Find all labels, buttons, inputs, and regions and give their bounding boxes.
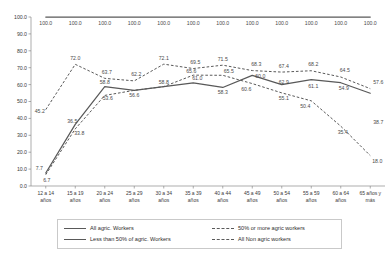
data-label: 54.9 (339, 85, 349, 91)
data-label: 72.0 (70, 55, 80, 61)
data-label: 38.7 (373, 119, 383, 125)
y-tick-label: 70.0 (17, 65, 27, 71)
data-label: 45.2 (35, 108, 45, 114)
data-label: 65.6 (186, 68, 196, 74)
x-tick-label: 65 años y (359, 190, 381, 196)
data-label: 6.7 (43, 177, 50, 183)
data-label: 67.4 (279, 63, 289, 69)
x-tick-label: años (188, 197, 199, 203)
data-label: 62.2 (131, 71, 141, 77)
data-label: 100.0 (275, 20, 288, 26)
series-line (46, 64, 371, 109)
legend-entry[interactable]: 50% or more agric workers (212, 223, 349, 234)
dashed-line-icon (212, 228, 234, 229)
data-label: 100.0 (98, 20, 111, 26)
data-label: 7.7 (36, 165, 43, 171)
data-label: 56.6 (129, 92, 139, 98)
data-label: 60.6 (241, 86, 251, 92)
x-tick-label: 15 a 19 (67, 190, 84, 196)
data-label: 58.3 (218, 89, 228, 95)
x-tick-label: años (335, 197, 346, 203)
y-tick-label: 100.0 (14, 14, 27, 20)
plot-area: 0.010.020.030.040.050.060.070.080.090.01… (0, 0, 392, 215)
solid-line-icon (64, 239, 86, 240)
series-line (46, 75, 371, 175)
data-label: 60.0 (255, 73, 265, 79)
x-tick-label: más (366, 197, 376, 203)
data-label: 53.6 (103, 95, 113, 101)
dashed-line-icon (212, 239, 234, 240)
y-axis: 0.010.020.030.040.050.060.070.080.090.01… (14, 14, 31, 189)
y-tick-label: 40.0 (17, 115, 27, 121)
data-label: 61.1 (308, 83, 318, 89)
legend-entry[interactable]: Less than 50% of agric. Workers (64, 234, 212, 245)
y-tick-label: 20.0 (17, 149, 27, 155)
data-label: 68.3 (251, 61, 261, 67)
x-tick-label: 35 a 39 (185, 190, 202, 196)
series-lines (46, 17, 371, 175)
x-tick-label: años (276, 197, 287, 203)
legend-label: Less than 50% of agric. Workers (90, 236, 171, 243)
data-label: 65.5 (224, 68, 234, 74)
x-tick-label: años (306, 197, 317, 203)
data-labels: 100.0100.0100.0100.0100.0100.0100.0100.0… (35, 20, 384, 184)
x-tick-label: años (99, 197, 110, 203)
x-tick-label: años (217, 197, 228, 203)
data-label: 72.1 (159, 55, 169, 61)
x-tick-label: 40 a 44 (214, 190, 231, 196)
x-tick-label: 60 a 64 (332, 190, 349, 196)
legend-entry[interactable]: All agric. Workers (64, 223, 212, 234)
x-tick-label: 25 a 29 (126, 190, 143, 196)
y-tick-label: 90.0 (17, 31, 27, 37)
data-label: 71.5 (218, 56, 228, 62)
data-label: 33.8 (74, 130, 84, 136)
data-label: 100.0 (69, 20, 82, 26)
x-tick-label: años (40, 197, 51, 203)
x-tick-label: años (247, 197, 258, 203)
data-label: 55.1 (279, 95, 289, 101)
x-tick-label: 55 a 59 (303, 190, 320, 196)
data-label: 100.0 (187, 20, 200, 26)
x-tick-label: años (129, 197, 140, 203)
y-tick-label: 50.0 (17, 98, 27, 104)
x-tick-label: 20 a 24 (96, 190, 113, 196)
legend-label: All Non agric workers (238, 236, 291, 243)
data-label: 64.5 (340, 67, 350, 73)
legend-label: 50% or more agric workers (238, 225, 305, 232)
x-tick-label: 45 a 49 (244, 190, 261, 196)
x-tick-label: años (158, 197, 169, 203)
data-label: 62.9 (279, 79, 289, 85)
data-label: 58.8 (100, 79, 110, 85)
x-tick-label: 30 a 34 (155, 190, 172, 196)
data-label: 61.0 (192, 75, 202, 81)
data-label: 58.8 (159, 79, 169, 85)
legend-entry[interactable]: All Non agric workers (212, 234, 349, 245)
y-tick-label: 10.0 (17, 166, 27, 172)
data-label: 100.0 (334, 20, 347, 26)
y-tick-label: 30.0 (17, 132, 27, 138)
data-label: 35.4 (338, 129, 348, 135)
data-label: 100.0 (128, 20, 141, 26)
data-label: 100.0 (216, 20, 229, 26)
x-tick-label: años (70, 197, 81, 203)
chart-container: 0.010.020.030.040.050.060.070.080.090.01… (0, 0, 392, 257)
y-tick-label: 0.0 (20, 183, 27, 189)
legend-label: All agric. Workers (90, 225, 134, 232)
chart-legend: All agric. Workers50% or more agric work… (57, 219, 342, 249)
data-label: 100.0 (246, 20, 259, 26)
data-label: 68.2 (308, 61, 318, 67)
data-label: 18.0 (372, 158, 382, 164)
data-label: 100.0 (364, 20, 377, 26)
data-label: 63.7 (102, 69, 112, 75)
y-tick-label: 60.0 (17, 82, 27, 88)
x-tick-label: 12 a 14 (37, 190, 54, 196)
data-label: 69.5 (190, 59, 200, 65)
y-tick-label: 80.0 (17, 48, 27, 54)
solid-line-icon (64, 228, 86, 229)
data-label: 57.6 (373, 79, 383, 85)
data-label: 50.4 (300, 103, 310, 109)
x-tick-label: 50 a 54 (273, 190, 290, 196)
series-line (46, 75, 371, 173)
x-axis: 12 a 14años15 a 19años20 a 24años25 a 29… (31, 186, 385, 203)
data-label: 100.0 (157, 20, 170, 26)
